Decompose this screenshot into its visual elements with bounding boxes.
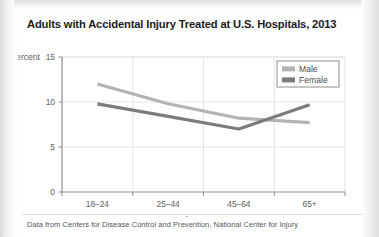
- x-tick-label: 18–24: [86, 199, 110, 209]
- scanned-page: Adults with Accidental Injury Treated at…: [0, 0, 379, 237]
- legend-swatch-male: [282, 66, 295, 71]
- line-chart: 051015Percent18–2425–4445–6465+Age group…: [18, 37, 363, 217]
- y-axis-label: Percent: [18, 52, 41, 62]
- chart-title: Adults with Accidental Injury Treated at…: [27, 18, 336, 30]
- footer-divider: [22, 214, 363, 215]
- source-caption: Data from Centers for Disease Control an…: [27, 220, 379, 229]
- y-tick-label: 5: [50, 142, 55, 152]
- page-edge-top: [14, 0, 361, 9]
- legend-label-male: Male: [299, 64, 318, 74]
- page-edge-left: [0, 0, 14, 237]
- x-tick-label: 25–44: [156, 199, 180, 209]
- legend-swatch-female: [282, 77, 295, 82]
- y-tick-label: 0: [50, 187, 55, 197]
- legend-label-female: Female: [299, 75, 328, 85]
- x-tick-label: 65+: [303, 199, 317, 209]
- chart-plot-area: 051015Percent18–2425–4445–6465+Age group…: [18, 37, 363, 217]
- y-tick-label: 10: [46, 97, 56, 107]
- y-tick-label: 15: [46, 52, 56, 62]
- chart-card: Adults with Accidental Injury Treated at…: [18, 9, 363, 237]
- page-edge-right: [361, 0, 379, 237]
- x-tick-label: 45–64: [227, 199, 251, 209]
